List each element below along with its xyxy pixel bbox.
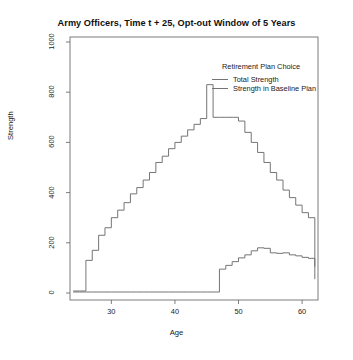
x-axis-ticks	[111, 300, 302, 304]
series-line-total-strength	[73, 85, 315, 291]
legend-label-strength-in-baseline-plan: Strength in Baseline Plan	[233, 84, 316, 93]
legend-title: Retirement Plan Choice	[222, 62, 300, 71]
y-axis-ticks	[66, 42, 70, 293]
chart-figure: Army Officers, Time t + 25, Opt-out Wind…	[0, 0, 353, 360]
plot-area	[0, 0, 353, 360]
plot-frame-border	[70, 37, 318, 300]
series-line-strength-in-baseline-plan	[73, 248, 315, 292]
legend-label-total-strength: Total Strength	[233, 75, 279, 84]
